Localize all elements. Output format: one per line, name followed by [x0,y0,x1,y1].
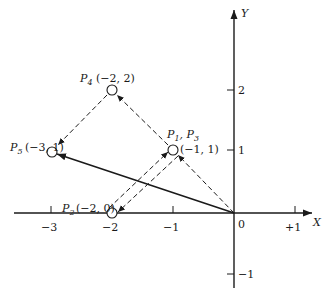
svg-text:P2: P2 [61,202,75,217]
label-p2: P2 (−2, 0) [61,202,115,217]
dashed-p3-to-p4 [117,95,168,145]
label-p4: P4 (−2, 2) [79,72,135,87]
svg-text:P5: P5 [9,141,23,156]
x-tick-label: −1 [163,221,179,234]
x-axis-label: X [312,216,322,229]
dashed-p3-to-p2 [118,156,178,212]
point-p1-p3 [168,145,178,155]
point-p4 [107,85,117,95]
dashed-p2-to-p1 [109,152,168,208]
y-axis-label: Y [241,7,250,20]
svg-text:(−3, 1): (−3, 1) [25,141,64,154]
svg-text:(−1, 1): (−1, 1) [180,143,219,156]
y-tick-label: −1 [238,268,254,281]
origin-label: 0 [238,218,245,231]
label-p5: P5 (−3, 1) [9,141,64,156]
y-tick-label: 2 [238,84,245,97]
y-ticks [227,90,234,274]
x-tick-label: −2 [102,221,118,234]
svg-text:(−2, 0): (−2, 0) [76,202,115,215]
svg-text:P4: P4 [79,72,93,87]
dashed-p4-to-p5 [58,95,107,145]
svg-text:(−2, 2): (−2, 2) [96,72,135,85]
vector-diagram: Y X 0 −3 −2 −1 +1 2 1 −1 P4 (−2, 2) P5 (… [0,0,332,296]
x-tick-label: +1 [285,221,301,234]
y-tick-label: 1 [238,144,245,157]
x-tick-label: −3 [41,221,57,234]
svg-text:P1, P3: P1, P3 [166,128,199,143]
